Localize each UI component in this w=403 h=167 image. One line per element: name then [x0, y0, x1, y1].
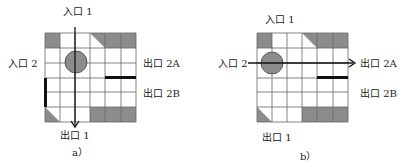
label-exit-2b: 出口 2B: [143, 88, 180, 100]
label-exit-2b: 出口 2B: [360, 88, 397, 100]
shaded-block: [302, 33, 348, 48]
panel-b: 入口 1 入口 2 出口 2A 出口 2B 出口 1 b）: [200, 0, 400, 167]
label-exit-2a: 出口 2A: [143, 58, 180, 70]
label-exit-1: 出口 1: [60, 130, 90, 142]
caption-a: a）: [72, 144, 88, 159]
panel-a: 入口 1 入口 2 出口 2A 出口 2B 出口 1 a）: [0, 0, 200, 167]
shaded-block: [90, 33, 136, 48]
shaded-block: [257, 107, 272, 122]
label-exit-1: 出口 1: [262, 132, 292, 144]
circle-obstacle: [65, 51, 87, 73]
label-entrance-2: 入口 2: [8, 58, 38, 70]
barrier-bar: [317, 76, 348, 79]
shaded-block: [45, 33, 60, 48]
label-entrance-1: 入口 1: [63, 6, 93, 18]
shaded-block: [302, 107, 348, 122]
label-entrance-1: 入口 1: [265, 14, 295, 26]
barrier-bar: [44, 78, 47, 107]
grid-diagram-a: [0, 0, 200, 167]
barrier-bar: [105, 76, 136, 79]
label-exit-2a: 出口 2A: [360, 58, 397, 70]
label-entrance-2: 入口 2: [218, 58, 248, 70]
grid-diagram-b: [200, 0, 403, 167]
shaded-block: [90, 107, 136, 122]
shaded-block: [45, 107, 60, 122]
caption-b: b）: [300, 148, 316, 163]
shaded-block: [257, 33, 272, 48]
